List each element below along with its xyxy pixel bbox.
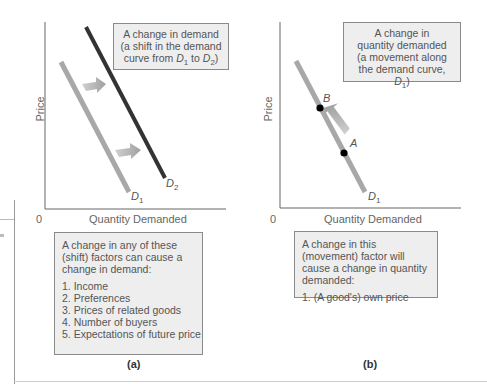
panel-b-factors-intro: A change in this (movement) factor will … xyxy=(302,238,430,286)
point-a-label: A xyxy=(350,137,357,149)
panel-a-shift-arrow-lower xyxy=(115,143,141,159)
panel-a-title-line1: A change in demand xyxy=(120,28,222,40)
panel-a-title-line2: (a shift in the demand xyxy=(120,40,222,52)
panel-b-title-box: A change in quantity demanded (a movemen… xyxy=(343,22,461,82)
point-b-label: B xyxy=(323,92,330,104)
panel-b-d1-label: D1 xyxy=(368,190,380,205)
panel-a-d1-label: D1 xyxy=(131,190,143,205)
panel-b-title-line1: A change in xyxy=(350,27,454,39)
panel-a-factor-item: 2. Preferences xyxy=(62,292,195,304)
panel-b-y-axis-label: Price xyxy=(262,89,274,129)
panel-a-y-axis-label: Price xyxy=(34,89,46,129)
panel-b-factors-box: A change in this (movement) factor will … xyxy=(294,231,438,298)
panel-a-title-box: A change in demand (a shift in the deman… xyxy=(113,23,229,70)
panel-b-title-line2: quantity demanded xyxy=(350,39,454,51)
panel-b-factor-item: 1. (A good's) own price xyxy=(302,291,430,303)
panel-a-factor-item: 1. Income xyxy=(62,280,195,292)
panel-a-label: (a) xyxy=(127,358,140,370)
panel-b-x-axis-label: Quantity Demanded xyxy=(324,213,422,225)
panel-b-title-line4: the demand curve, D1) xyxy=(350,63,454,92)
panel-a-factors-box: A change in any of these (shift) factors… xyxy=(54,232,203,355)
panel-a-factor-item: 3. Prices of related goods xyxy=(62,304,195,316)
panel-b-label: (b) xyxy=(363,358,377,370)
point-a xyxy=(340,149,347,156)
point-b xyxy=(316,104,323,111)
panel-a-d1-curve xyxy=(61,62,129,192)
panel-a-factor-item: 5. Expectations of future price xyxy=(62,328,195,340)
panel-b-origin-label: 0 xyxy=(270,213,276,225)
panel-a-factors-intro: A change in any of these (shift) factors… xyxy=(62,239,195,275)
panel-a-title-line3: curve from D1 to D2) xyxy=(120,52,222,69)
panel-b-title-line3: (a movement along xyxy=(350,51,454,63)
panel-a-origin-label: 0 xyxy=(36,213,42,225)
panel-a-d2-label: D2 xyxy=(166,177,178,192)
panel-a-shift-arrow-upper xyxy=(82,77,106,93)
panel-a-x-axis-label: Quantity Demanded xyxy=(89,213,187,225)
panel-a-factor-item: 4. Number of buyers xyxy=(62,316,195,328)
